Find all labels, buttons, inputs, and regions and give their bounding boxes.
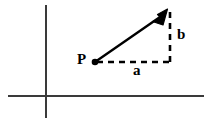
point-p-marker [92, 59, 99, 66]
diagram-canvas [0, 0, 215, 122]
horizontal-component-label: a [133, 63, 141, 78]
vector-arrowhead [153, 9, 168, 25]
vector-arrow-shaft [95, 17, 160, 62]
vertical-component-label: b [177, 27, 185, 42]
point-p-label: P [77, 52, 86, 67]
vector-components-figure: P a b [0, 0, 215, 122]
